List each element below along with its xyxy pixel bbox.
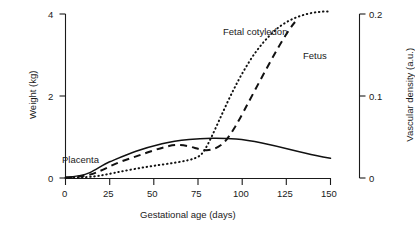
left-tick-label-2: 2 (48, 92, 53, 102)
x-axis-title: Gestational age (days) (140, 210, 236, 220)
right-tick-label-0p2: 0.2 (369, 10, 382, 20)
x-axis (65, 178, 331, 185)
x-tick-label-50: 50 (147, 189, 158, 199)
left-tick-label-4: 4 (48, 10, 53, 20)
y-axis-title: Weight (kg) (28, 55, 38, 135)
right-tick-label-0: 0 (369, 174, 374, 184)
x-tick-label-125: 125 (277, 189, 293, 199)
series-label-placenta: Placenta (62, 155, 99, 165)
series-fetal-cotyledon-line (66, 11, 331, 177)
right-axis (360, 14, 366, 178)
series-label-fetus: Fetus (303, 51, 327, 61)
x-tick-label-25: 25 (103, 189, 114, 199)
series-placenta-line (66, 138, 331, 177)
x-tick-label-0: 0 (62, 189, 67, 199)
x-tick-label-100: 100 (233, 189, 249, 199)
x-tick-label-75: 75 (191, 189, 202, 199)
left-tick-label-0: 0 (48, 174, 53, 184)
y2-axis-title: Vascular density (a.u.) (405, 30, 415, 160)
series-label-fetal-cotyledon: Fetal cotyledon (223, 27, 287, 37)
right-tick-label-0p1: 0.1 (369, 92, 382, 102)
x-tick-label-150: 150 (321, 189, 337, 199)
